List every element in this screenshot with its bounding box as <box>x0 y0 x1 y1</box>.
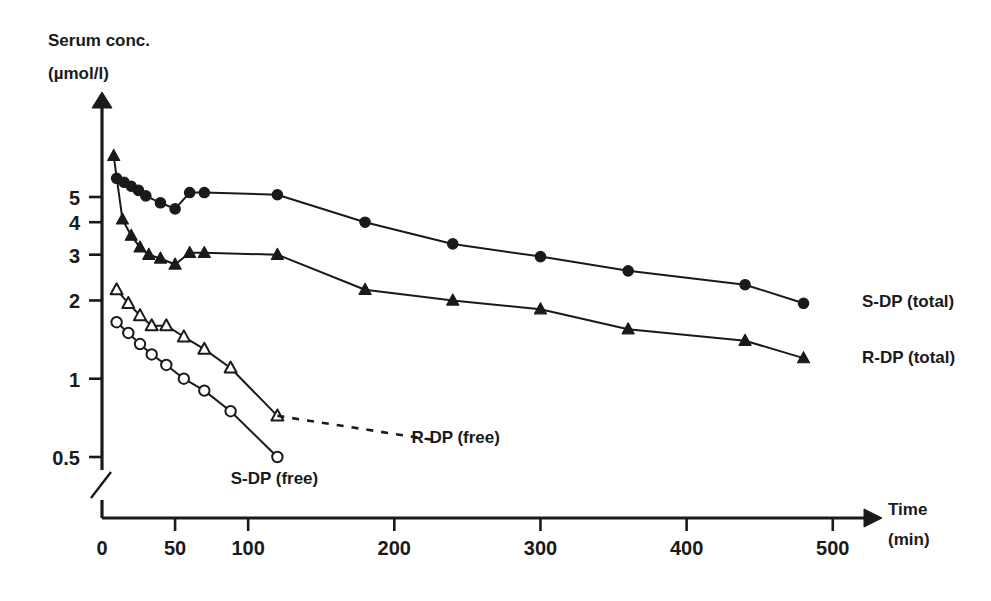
x-tick-label: 100 <box>231 537 264 559</box>
data-point-marker <box>535 251 545 261</box>
series-label: S-DP (total) <box>862 292 954 311</box>
data-point-marker <box>155 198 165 208</box>
y-axis-title: Serum conc. <box>48 31 150 50</box>
data-point-marker <box>116 213 128 224</box>
data-point-marker <box>170 204 180 214</box>
data-point-marker <box>179 374 189 384</box>
data-point-marker <box>184 187 194 197</box>
x-tick-label: 400 <box>670 537 703 559</box>
data-point-marker <box>623 266 633 276</box>
data-point-marker <box>272 452 282 462</box>
data-point-marker <box>740 279 750 289</box>
y-axis-units: (µmol/l) <box>48 64 109 83</box>
data-point-marker <box>111 317 121 327</box>
series-label: R-DP (free) <box>411 428 499 447</box>
data-point-marker <box>272 190 282 200</box>
data-point-marker <box>146 349 156 359</box>
x-tick-label: 200 <box>378 537 411 559</box>
y-tick-label: 1 <box>69 369 80 391</box>
x-axis-units: (min) <box>888 530 930 549</box>
data-point-marker <box>125 229 137 240</box>
y-tick-label: 5 <box>69 187 80 209</box>
series-path <box>114 156 804 358</box>
x-axis-arrowhead <box>864 509 882 527</box>
x-axis-ticks: 050100200300400500 <box>96 518 849 559</box>
data-point-marker <box>135 339 145 349</box>
x-axis-title: Time <box>888 500 927 519</box>
data-point-marker <box>199 385 209 395</box>
data-point-marker <box>178 330 190 341</box>
series-label: R-DP (total) <box>862 348 955 367</box>
data-point-marker <box>225 406 235 416</box>
data-point-marker <box>161 360 171 370</box>
data-point-marker <box>199 187 209 197</box>
axes <box>91 92 882 527</box>
y-tick-label: 2 <box>69 290 80 312</box>
series-r-dp-free <box>111 283 284 420</box>
y-tick-label: 0.5 <box>52 447 80 469</box>
x-tick-label: 500 <box>816 537 849 559</box>
data-series <box>108 149 810 462</box>
axis-labels: Serum conc. (µmol/l) Time (min) <box>48 31 930 549</box>
data-point-marker <box>360 217 370 227</box>
data-point-marker <box>225 362 237 373</box>
x-tick-label: 50 <box>164 537 186 559</box>
data-point-marker <box>448 239 458 249</box>
series-label: S-DP (free) <box>231 469 319 488</box>
data-point-marker <box>111 283 123 294</box>
y-axis-ticks: 543210.5 <box>52 187 102 469</box>
y-tick-label: 4 <box>69 212 81 234</box>
data-point-marker <box>198 343 210 354</box>
pharmacokinetic-chart: Serum conc. (µmol/l) Time (min) 543210.5… <box>0 0 991 601</box>
series-r-dp-total <box>108 149 810 362</box>
y-axis-arrowhead <box>92 92 112 108</box>
y-axis-break-mark <box>91 472 111 498</box>
chart-canvas: Serum conc. (µmol/l) Time (min) 543210.5… <box>0 0 991 601</box>
data-point-marker <box>798 298 808 308</box>
y-tick-label: 3 <box>69 245 80 267</box>
series-s-dp-total <box>111 173 808 308</box>
data-point-marker <box>141 191 151 201</box>
x-tick-label: 0 <box>96 537 107 559</box>
series-path <box>117 178 804 303</box>
x-tick-label: 300 <box>524 537 557 559</box>
data-point-marker <box>108 149 120 160</box>
series-s-dp-free <box>111 317 282 462</box>
data-point-marker <box>123 328 133 338</box>
